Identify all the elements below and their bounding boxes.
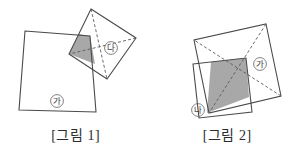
fig1-label-ga: 가 [51, 95, 64, 108]
fig2-label-ga: 가 [254, 58, 267, 71]
fig2-label-na: 나 [192, 104, 205, 117]
figure-2-caption: [그림 2] [152, 124, 304, 144]
figure-1-caption: [그림 1] [0, 124, 152, 144]
figure-board: 가 나 가 [0, 0, 303, 155]
fig2-label-ga-text: 가 [256, 59, 264, 69]
caption-row: [그림 1] [그림 2] [0, 124, 303, 155]
fig1-label-ga-text: 가 [53, 96, 61, 106]
fig1-label-na-text: 나 [107, 43, 115, 53]
figure-1-group: 가 나 [19, 9, 136, 112]
figure-2-group: 가 나 [192, 24, 281, 118]
fig1-label-na: 나 [105, 42, 118, 55]
fig1-diagonal-na-1 [91, 9, 107, 79]
fig2-label-na-text: 나 [194, 105, 202, 115]
